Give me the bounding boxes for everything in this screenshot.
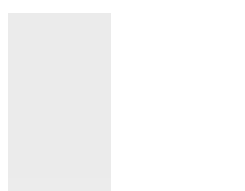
surface-plot <box>0 0 245 191</box>
